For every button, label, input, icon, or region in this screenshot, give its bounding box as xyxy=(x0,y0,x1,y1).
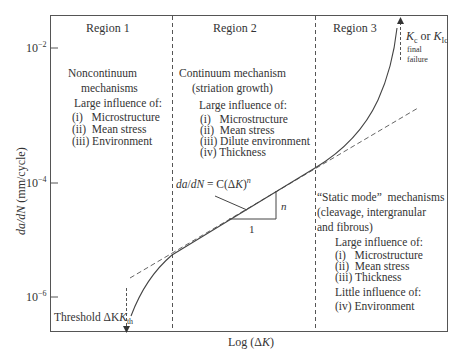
region-3-notes: “Static mode” mechanisms (cleavage, inte… xyxy=(317,191,445,313)
x-axis-label: Log (ΔK) xyxy=(228,335,274,349)
y-axis-ticks xyxy=(50,48,58,297)
plot-frame xyxy=(51,16,448,332)
region-2-mechanism-line-2: (striation growth) xyxy=(192,82,273,95)
region-2-mechanism-line-1: Continuum mechanism xyxy=(179,67,286,79)
y-axis-tick-labels: 10−2 10−4 10−6 xyxy=(26,40,47,304)
region-1-influence-title: Large influence of: xyxy=(74,97,162,110)
region-1-title: Region 1 xyxy=(86,21,130,35)
region-1-item-3: (iii) Environment xyxy=(72,135,153,148)
paris-law-pointer xyxy=(215,196,247,210)
region-1-notes: Noncontinuum mechanisms Large influence … xyxy=(68,67,162,148)
final-failure-label-line-2: failure xyxy=(407,55,428,64)
region-3-mechanism-line-2: (cleavage, intergranular xyxy=(317,206,426,219)
y-axis-label: da/dN (mm/cycle) xyxy=(14,147,28,235)
region-2-title: Region 2 xyxy=(213,21,257,35)
region-3-item-3: (iii) Thickness xyxy=(335,271,402,284)
region-3-influence-title: Large influence of: xyxy=(335,236,423,249)
slope-rise-label: n xyxy=(281,200,287,212)
y-tick-label-1e-4: 10−4 xyxy=(26,175,47,190)
region-3-title: Region 3 xyxy=(333,21,377,35)
region-1-mechanism-line-2: mechanisms xyxy=(81,82,138,94)
slope-run-label: 1 xyxy=(249,223,255,235)
y-tick-label-1e-6: 10−6 xyxy=(26,289,47,304)
region-3-mechanism-line-3: and fibrous) xyxy=(317,221,373,234)
fatigue-crack-growth-diagram: 10−2 10−4 10−6 da/dN (mm/cycle) Log (ΔK)… xyxy=(0,0,460,361)
region-2-item-4: (iv) Thickness xyxy=(200,146,266,159)
final-failure-arrow-icon xyxy=(397,17,404,24)
paris-law-equation: da/dN = C(ΔK)n xyxy=(176,176,251,191)
final-failure-label-line-1: final xyxy=(407,45,422,54)
region-3-little-influence-title: Little influence of: xyxy=(335,286,421,298)
y-tick-label-1e-2: 10−2 xyxy=(26,40,47,55)
region-3-mechanism-line-1: “Static mode” mechanisms xyxy=(317,191,445,203)
region-2-influence-title: Large influence of: xyxy=(199,99,287,112)
region-3-little-item-1: (iv) Environment xyxy=(335,300,415,313)
region-1-mechanism-line-1: Noncontinuum xyxy=(68,67,137,79)
threshold-label: Threshold ΔKKth xyxy=(54,311,133,326)
kc-label: Kc or KIc xyxy=(405,29,448,45)
region-2-notes: Continuum mechanism (striation growth) L… xyxy=(179,67,311,159)
